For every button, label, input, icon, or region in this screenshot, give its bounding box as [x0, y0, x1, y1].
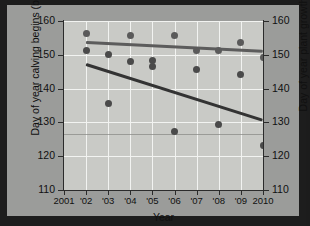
data-point [127, 58, 134, 65]
data-point [171, 128, 178, 135]
y-axis-right-tick-label: 110 [272, 184, 289, 194]
y-axis-right-tick [264, 21, 269, 22]
y-axis-right-title: Day of year plant growth begins (red) [297, 0, 306, 125]
figure-frame: Day of year calving begins (blue) Day of… [0, 0, 306, 226]
data-point [193, 66, 200, 73]
y-axis-right-tick-label: 120 [272, 150, 290, 160]
plot-area [64, 21, 263, 190]
data-point [149, 63, 156, 70]
x-axis-tick-label: 2010 [247, 196, 279, 206]
y-axis-left-tick-label: 150 [19, 49, 55, 59]
y-axis-right-tick [264, 122, 269, 123]
y-axis-left-tick-label: 160 [19, 15, 55, 25]
y-axis-left-tick [58, 156, 63, 157]
y-axis-right-tick-label: 140 [272, 83, 290, 93]
y-axis-left-tick [58, 21, 63, 22]
y-axis-right-tick [264, 55, 269, 56]
y-axis-right-tick-label: 130 [272, 116, 290, 126]
y-axis-right-tick-label: 160 [272, 15, 290, 25]
y-axis-left-tick [58, 190, 63, 191]
x-axis-title: Year [64, 211, 263, 223]
data-point [215, 121, 222, 128]
faint-horizontal-reference [64, 134, 263, 135]
x-axis-spine [63, 190, 264, 191]
y-axis-right-tick-label: 150 [272, 49, 290, 59]
data-point [127, 32, 134, 39]
data-point [83, 47, 90, 54]
gridline-horizontal [64, 156, 263, 157]
y-axis-left-tick [58, 122, 63, 123]
y-axis-left-tick [58, 55, 63, 56]
gridline-horizontal [64, 55, 263, 56]
data-point [237, 71, 244, 78]
gridline-horizontal [64, 122, 263, 123]
y-axis-left-tick [58, 89, 63, 90]
data-point [215, 47, 222, 54]
data-point [83, 30, 90, 37]
chart-card: Day of year calving begins (blue) Day of… [7, 5, 299, 216]
data-point [105, 51, 112, 58]
y-axis-right-spine [263, 20, 264, 191]
data-point [237, 39, 244, 46]
gridline-horizontal [64, 21, 263, 22]
data-point [171, 32, 178, 39]
y-axis-left-tick-label: 140 [19, 83, 55, 93]
y-axis-left-tick-label: 110 [19, 184, 55, 194]
gridline-vertical [130, 21, 131, 190]
y-axis-right-tick [264, 89, 269, 90]
data-point [105, 100, 112, 107]
y-axis-left-tick-label: 120 [19, 150, 55, 160]
y-axis-left-spine [63, 20, 64, 191]
y-axis-right-tick [264, 190, 269, 191]
y-axis-left-tick-label: 130 [19, 116, 55, 126]
y-axis-right-tick [264, 156, 269, 157]
gridline-vertical [241, 21, 242, 190]
data-point [193, 47, 200, 54]
